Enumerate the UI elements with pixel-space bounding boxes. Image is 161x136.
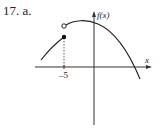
y-axis-label: f(x) [97, 10, 110, 20]
x-axis-label: x [144, 55, 149, 65]
y-axis [92, 11, 96, 125]
right-curve [66, 21, 140, 79]
left-curve [41, 37, 64, 60]
piecewise-function-graph: f(x) x –5 [0, 0, 161, 136]
open-circle-icon [62, 24, 66, 28]
closed-dot-icon [62, 35, 66, 39]
x-tick-label: –5 [58, 70, 69, 80]
y-axis-arrow-icon [92, 11, 96, 17]
x-axis-arrow-icon [146, 65, 152, 69]
